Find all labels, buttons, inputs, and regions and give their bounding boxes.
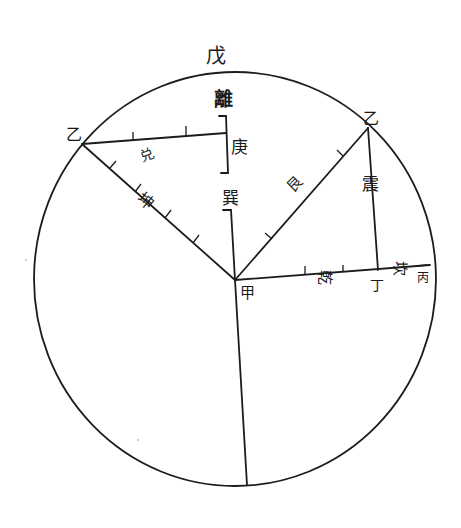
label-xun: 巽 bbox=[222, 188, 239, 208]
label-bing: 丙 bbox=[417, 271, 429, 285]
label-wu: 戊 bbox=[206, 44, 226, 68]
geng-bracket bbox=[219, 116, 228, 173]
label-ding: 丁 bbox=[370, 277, 384, 293]
speck bbox=[25, 259, 27, 261]
label-left-yi: 乙 bbox=[66, 125, 82, 144]
label-gen: 艮 bbox=[283, 173, 306, 196]
tick bbox=[165, 210, 171, 218]
tick bbox=[110, 161, 116, 168]
line-right-vertex-ding bbox=[368, 128, 378, 270]
line-center-left-vertex bbox=[82, 144, 235, 280]
tick bbox=[265, 233, 272, 239]
label-qian: 乾 bbox=[316, 270, 334, 285]
xun-line bbox=[223, 210, 235, 280]
tick bbox=[337, 150, 343, 156]
label-kan: 坎 bbox=[391, 261, 409, 276]
speck bbox=[137, 439, 139, 441]
line-center-right-vertex bbox=[235, 128, 368, 280]
label-li: 離 bbox=[214, 88, 233, 110]
diagram-canvas: 戊 離 庚 巽 乙 乙 兑 坤 甲 艮 震 乾 丁 坎 丙 bbox=[0, 0, 461, 528]
tick bbox=[135, 184, 141, 192]
tick bbox=[193, 235, 199, 243]
label-right-yi: 乙 bbox=[363, 109, 379, 128]
label-geng: 庚 bbox=[231, 137, 248, 157]
line-center-bottom bbox=[235, 280, 247, 485]
line-left-vertex-geng bbox=[82, 133, 226, 144]
label-dui: 兑 bbox=[138, 145, 157, 165]
label-jia: 甲 bbox=[240, 284, 255, 302]
label-zhen: 震 bbox=[362, 174, 379, 194]
